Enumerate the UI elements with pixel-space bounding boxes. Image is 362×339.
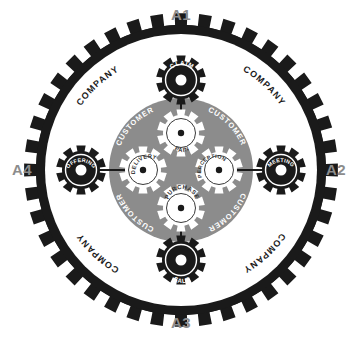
axis-label-a4: A4 <box>12 161 32 178</box>
gear-cycle-diagram: COMPANY COMPANY COMPANY COMPANY CUSTOMER… <box>0 0 362 339</box>
outer-gear-offering-hub <box>76 165 87 176</box>
outer-gear-claim-hub <box>176 75 187 86</box>
outer-gear-sale-hub <box>176 255 187 266</box>
inner-gear-pain-hub <box>178 130 184 136</box>
inner-gear-delivery[interactable] <box>119 146 167 193</box>
outer-gear-offering[interactable] <box>56 145 106 194</box>
axis-label-a1: A1 <box>0 6 362 23</box>
axis-label-a2: A2 <box>326 161 346 178</box>
outer-gear-meeting[interactable] <box>256 145 306 194</box>
inner-gear-delivery-hub <box>140 167 146 173</box>
outer-gear-meeting-hub <box>276 165 287 176</box>
diagram-canvas: COMPANY COMPANY COMPANY COMPANY CUSTOMER… <box>0 0 362 339</box>
axis-label-a3: A3 <box>0 314 362 331</box>
inner-gear-perception-hub <box>216 167 222 173</box>
inner-gear-purchase[interactable] <box>157 184 205 231</box>
inner-gear-purchase-hub <box>178 205 184 211</box>
